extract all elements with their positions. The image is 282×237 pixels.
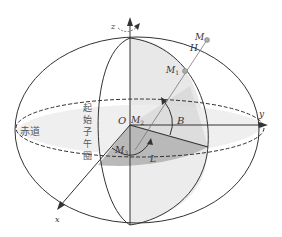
svg-text:午: 午 — [83, 138, 92, 149]
y-axis-label: y — [258, 109, 265, 119]
svg-text:始: 始 — [83, 114, 92, 125]
x-axis-label: x — [55, 215, 60, 224]
z-axis-label: z — [110, 22, 116, 31]
longitude-label: L — [149, 154, 156, 164]
origin-label: O — [118, 115, 126, 126]
meridian-plane-shade-lower — [130, 155, 207, 225]
point-M1-icon — [183, 69, 188, 74]
svg-text:圈: 圈 — [83, 151, 92, 161]
geodetic-diagram: z y x M H M1 O M2 B M3 L 赤道 起 始 子 午 圈 — [0, 0, 282, 237]
svg-text:起: 起 — [83, 103, 92, 113]
point-M-label: M — [194, 32, 205, 42]
height-label: H — [189, 43, 198, 53]
svg-text:子: 子 — [83, 127, 92, 137]
z-axis-arrow-icon — [127, 17, 133, 26]
latitude-label: B — [176, 115, 184, 126]
point-M-icon — [205, 38, 210, 43]
equator-label: 赤道 — [20, 125, 40, 137]
prime-meridian-label: 起 始 子 午 圈 — [83, 103, 92, 161]
y-axis-arrow-icon — [259, 122, 268, 128]
